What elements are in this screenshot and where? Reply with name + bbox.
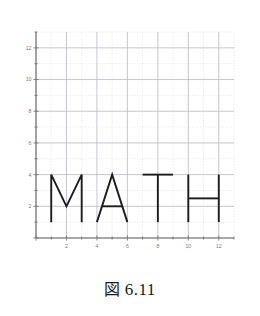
axis-ticks [33, 32, 234, 241]
plot-area: 2468101224681012 [22, 26, 238, 260]
caption-figure-word: 図 [104, 281, 121, 298]
y-tick-label: 12 [26, 45, 32, 51]
axes [36, 32, 234, 238]
coordinate-plot-svg: 2468101224681012 [22, 26, 238, 260]
figure-caption: 図6.11 [0, 276, 260, 300]
figure-container: 2468101224681012 図6.11 [0, 0, 260, 316]
y-tick-label: 4 [29, 172, 32, 178]
grid-major-lines [36, 32, 234, 238]
math-letters [51, 175, 219, 223]
caption-number: 6.11 [125, 280, 156, 299]
x-tick-label: 2 [65, 243, 68, 249]
y-tick-label: 8 [29, 108, 32, 114]
x-tick-label: 8 [156, 243, 159, 249]
x-tick-label: 12 [216, 243, 222, 249]
y-tick-label: 2 [29, 203, 32, 209]
y-tick-label: 6 [29, 140, 32, 146]
axis-tick-labels: 2468101224681012 [26, 45, 222, 249]
grid-minor-lines [36, 32, 234, 238]
y-tick-label: 10 [26, 76, 32, 82]
x-tick-label: 10 [185, 243, 191, 249]
x-tick-label: 4 [95, 243, 98, 249]
x-tick-label: 6 [126, 243, 129, 249]
